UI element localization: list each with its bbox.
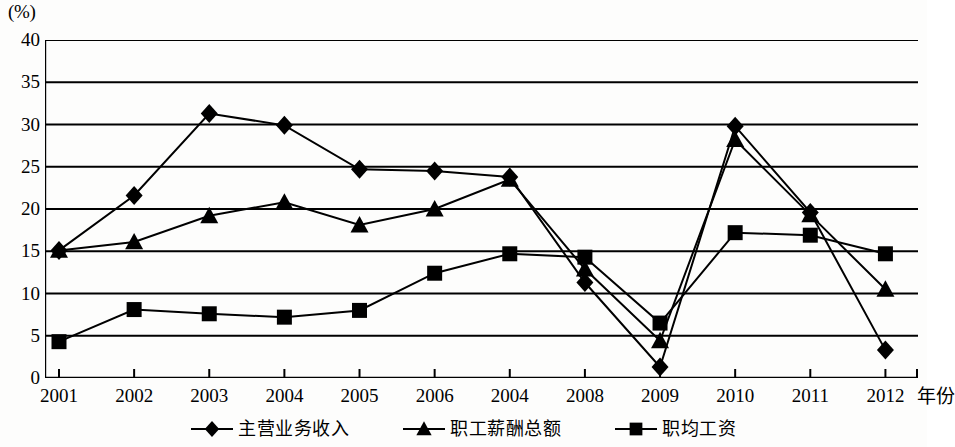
data-point-marker — [502, 246, 517, 261]
data-point-marker — [125, 233, 143, 249]
y-tick-label: 35 — [0, 72, 40, 91]
x-tick-label: 2002 — [115, 385, 153, 407]
series-3 — [52, 225, 893, 349]
legend-label: 职均工资 — [662, 418, 736, 440]
data-point-marker — [352, 303, 367, 318]
data-point-marker — [426, 161, 443, 180]
data-point-marker — [803, 228, 818, 243]
y-tick-label: 40 — [0, 30, 40, 49]
y-tick-label: 0 — [0, 368, 40, 387]
legend-item-2[interactable]: 职工薪酬总额 — [403, 418, 561, 440]
series-line — [59, 114, 885, 368]
data-point-marker — [127, 302, 142, 317]
x-tick-label: 2012 — [866, 385, 904, 407]
x-tick-label: 2005 — [341, 385, 379, 407]
data-point-marker — [277, 310, 292, 325]
x-tick-label: 2010 — [716, 385, 754, 407]
x-tick-label: 2006 — [416, 385, 454, 407]
y-axis-tick-labels: 4035302520151050 — [0, 40, 40, 378]
data-point-marker — [577, 250, 592, 265]
y-tick-label: 10 — [0, 284, 40, 303]
x-tick-label: 2004 — [265, 385, 303, 407]
series-line — [59, 233, 885, 342]
x-tick-label: 2011 — [792, 385, 829, 407]
y-tick-label: 5 — [0, 326, 40, 345]
legend-label: 职工薪酬总额 — [450, 418, 561, 440]
x-axis-title: 年份 — [917, 385, 955, 407]
y-tick-label: 30 — [0, 115, 40, 134]
diamond-marker — [191, 420, 233, 438]
data-point-marker — [52, 334, 67, 349]
data-point-marker — [653, 316, 668, 331]
legend-item-1[interactable]: 主营业务收入 — [191, 418, 349, 440]
data-point-marker — [275, 193, 293, 209]
x-axis-tick-labels: 2001200220032004200520062004200820092010… — [45, 385, 918, 411]
data-point-marker — [878, 246, 893, 261]
x-tick-label: 2008 — [566, 385, 604, 407]
legend-label: 主营业务收入 — [238, 418, 349, 440]
chart-canvas — [45, 40, 918, 378]
y-tick-label: 25 — [0, 157, 40, 176]
x-tick-label: 2001 — [40, 385, 78, 407]
legend-item-3[interactable]: 职均工资 — [615, 418, 736, 440]
data-point-marker — [276, 116, 293, 135]
y-tick-label: 20 — [0, 199, 40, 218]
data-point-marker — [427, 266, 442, 281]
x-tick-label: 2009 — [641, 385, 679, 407]
data-point-marker — [728, 225, 743, 240]
data-point-marker — [202, 306, 217, 321]
y-axis-unit-label: (%) — [8, 2, 36, 22]
chart-legend: 主营业务收入职工薪酬总额职均工资 — [0, 414, 927, 444]
triangle-marker — [403, 420, 445, 438]
y-tick-label: 15 — [0, 241, 40, 260]
data-point-marker — [877, 341, 894, 360]
x-tick-label: 2003 — [190, 385, 228, 407]
data-point-marker — [351, 160, 368, 179]
plot-area — [45, 40, 918, 378]
square-marker — [615, 420, 657, 438]
series-line — [59, 140, 885, 341]
x-tick-label: 2004 — [491, 385, 529, 407]
